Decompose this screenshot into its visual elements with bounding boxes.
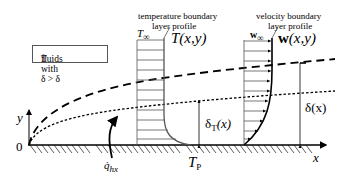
velocity-profile-curve	[244, 38, 272, 145]
temperature-profile-curve	[164, 38, 190, 145]
heat-flux-label: q̇hx	[104, 160, 118, 174]
temperature-caption-line1: temperature boundary	[138, 12, 217, 21]
thermal-boundary-curve	[29, 91, 335, 145]
origin-label: 0	[16, 140, 23, 153]
fluid-condition-box: fluids with δ > δT	[32, 45, 108, 63]
wall-hatching	[30, 145, 312, 153]
temperature-profile-lines	[137, 40, 176, 145]
w-infinity-label: w∞	[250, 30, 264, 43]
wall-temperature-label: TP	[188, 155, 201, 172]
velocity-thickness-label: δ(x)	[305, 101, 326, 114]
t-infinity-label: T∞	[137, 28, 150, 42]
y-axis-label: y	[17, 111, 23, 124]
velocity-function-label: w(x,y)	[278, 31, 316, 46]
velocity-caption-line1: velocity boundary	[256, 12, 321, 21]
thermal-thickness-label: δT(x)	[205, 117, 231, 133]
x-axis-label: x	[313, 151, 319, 164]
temperature-function-label: T(x,y)	[171, 31, 206, 46]
